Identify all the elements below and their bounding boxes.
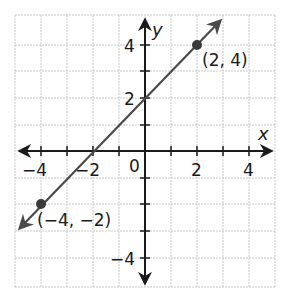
x-tick-label-4: 4 [243,160,254,180]
point-neg4-neg2 [36,199,46,209]
x-tick-label-neg2: −2 [75,160,100,180]
y-tick-label-4: 4 [124,36,135,56]
x-tick-label-neg4: −4 [22,160,47,180]
point-2-4 [192,40,202,50]
point-label-2-4: (2, 4) [202,50,248,70]
y-tick-label-neg4: −4 [110,249,135,269]
origin-label: 0 [129,156,140,176]
y-tick-label-2: 2 [124,89,135,109]
y-axis-label: y [151,19,163,40]
coordinate-plane: y x 4 2 −4 −4 −2 0 2 4 (2, 4) (−4, −2) [0,0,282,302]
x-axis-label: x [257,123,269,144]
x-tick-label-2: 2 [191,160,202,180]
point-label-neg4-neg2: (−4, −2) [37,210,111,230]
